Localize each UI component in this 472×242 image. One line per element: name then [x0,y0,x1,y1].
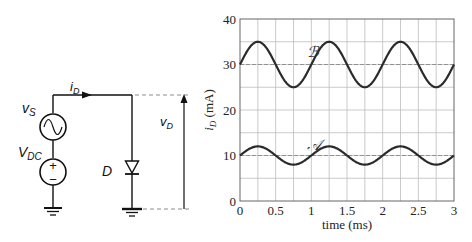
y-tick-label: 0 [230,194,237,209]
y-tick-label: 40 [223,12,236,27]
y-axis-label: iD (mA) [201,89,218,131]
plus-sign: + [49,158,57,173]
ground-icon [44,208,62,215]
x-axis-label: time (ms) [322,217,372,232]
dc-source-label: VDC [18,144,43,162]
current-arrow-icon [82,92,92,99]
x-tick-label: 1.5 [339,203,355,218]
minus-sign: − [49,172,57,187]
y-tick-label: 30 [223,57,236,72]
x-tick-label: 0 [237,203,244,218]
chart: 010203040 00.511.522.53 ℬ 𝒜 time (ms) iD… [201,12,457,233]
grid-lines [240,19,454,201]
figure: + − iD vS VDC D vD [0,0,472,242]
curve-b-label: ℬ [307,44,320,60]
x-tick-labels: 00.511.522.53 [237,203,458,218]
y-tick-label: 20 [223,103,236,118]
circuit-schematic: + − iD vS VDC D vD [18,79,190,216]
current-label: iD [70,79,80,96]
y-tick-labels: 010203040 [223,12,236,209]
ac-source-label: vS [22,100,36,118]
y-tick-label: 10 [223,148,236,163]
x-tick-label: 2.5 [410,203,426,218]
diode-icon [126,161,139,173]
ground-icon [122,209,142,216]
diode-label: D [102,163,112,179]
x-tick-label: 3 [451,203,458,218]
x-tick-label: 2 [379,203,386,218]
curve-a-label: 𝒜 [307,137,326,153]
x-tick-label: 1 [308,203,315,218]
x-tick-label: 0.5 [268,203,284,218]
voltage-label: vD [160,114,174,131]
